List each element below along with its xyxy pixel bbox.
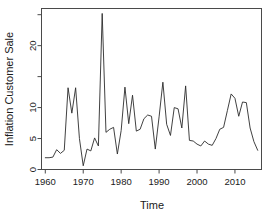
x-tick-label: 2010 bbox=[224, 176, 245, 187]
plot-frame bbox=[42, 9, 262, 170]
x-tick-label: 1990 bbox=[149, 176, 170, 187]
x-tick-label: 2000 bbox=[186, 176, 207, 187]
y-tick-label: 0 bbox=[27, 167, 38, 172]
chart-figure: Inflation Customer Sale Time 051020 1960… bbox=[0, 0, 276, 214]
series-line bbox=[45, 13, 257, 165]
x-tick-label: 1960 bbox=[35, 176, 56, 187]
line-chart: Inflation Customer Sale Time 051020 1960… bbox=[0, 0, 276, 214]
y-axis-ticks: 051020 bbox=[27, 15, 41, 172]
x-tick-label: 1980 bbox=[111, 176, 132, 187]
x-axis-ticks: 196019701980199020002010 bbox=[35, 170, 246, 187]
y-tick-label: 5 bbox=[27, 136, 38, 141]
y-axis-title: Inflation Customer Sale bbox=[3, 32, 15, 146]
data-series-layer bbox=[45, 13, 257, 165]
x-tick-label: 1970 bbox=[73, 176, 94, 187]
y-tick-label: 20 bbox=[27, 40, 38, 51]
x-axis-title: Time bbox=[140, 199, 164, 211]
y-tick-label: 10 bbox=[27, 102, 38, 113]
